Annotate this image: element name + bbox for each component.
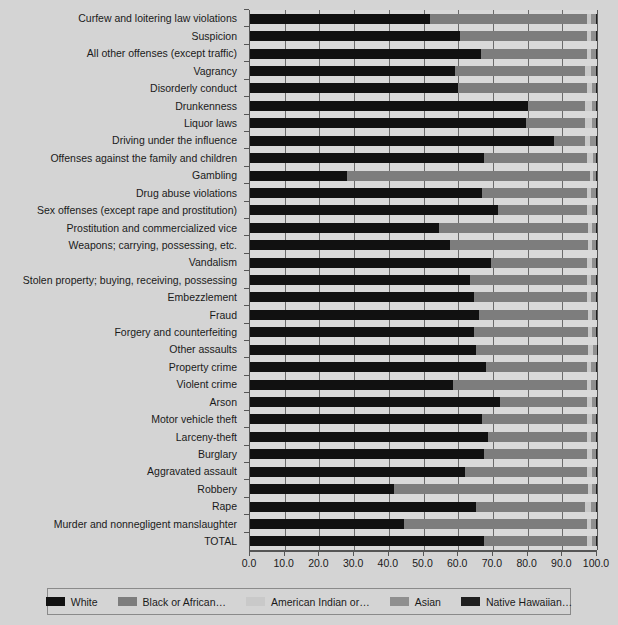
bar-segment [596,258,597,268]
bar-segment [250,536,484,546]
bar-segment [474,327,589,337]
bar-segment [250,362,486,372]
bar-segment [526,118,585,128]
stacked-bar [250,66,597,76]
y-axis-label: Embezzlement [0,289,243,306]
bar-segment [250,275,470,285]
y-axis-label: Murder and nonnegligent manslaughter [0,515,243,532]
y-axis-label: All other offenses (except traffic) [0,45,243,62]
stacked-bar [250,362,597,372]
y-axis-label: Burglary [0,446,243,463]
bar-segment [596,14,597,24]
legend-item[interactable]: American Indian or… [246,596,370,608]
bar-segment [486,362,587,372]
bar-row [250,411,597,428]
bar-row [250,271,597,288]
bar-segment [596,292,597,302]
bar-segment [596,519,597,529]
bar-segment [484,153,586,163]
bar-row [250,376,597,393]
stacked-bar [250,49,597,59]
bar-segment [596,136,597,146]
stacked-bar [250,292,597,302]
bar-row [250,80,597,97]
x-tick-label: 100.0 [583,557,609,569]
bar-segment [482,188,586,198]
x-tick-mark [457,551,458,556]
x-tick-label: 10.0 [273,557,293,569]
stacked-bar [250,240,597,250]
bar-segment [439,223,588,233]
bar-row [250,341,597,358]
bar-segment [491,258,586,268]
bar-segment [460,31,587,41]
y-axis-label: Gambling [0,167,243,184]
y-axis-label: Aggravated assault [0,463,243,480]
bar-row [250,289,597,306]
bar-segment [250,292,474,302]
bar-segment [250,327,474,337]
stacked-bar [250,171,597,181]
bar-row [250,254,597,271]
bar-segment [596,432,597,442]
stacked-bar [250,188,597,198]
bar-row [250,10,597,27]
legend-label: White [71,596,98,608]
x-tick-label: 30.0 [343,557,363,569]
bar-segment [596,188,597,198]
stacked-bar [250,118,597,128]
bar-segment [476,345,589,355]
bar-segment [596,484,597,494]
bar-segment [250,397,500,407]
bar-segment [585,101,593,111]
bar-segment [250,101,528,111]
stacked-bar [250,327,597,337]
y-axis-label: Drunkenness [0,97,243,114]
stacked-bar [250,449,597,459]
y-axis-label: Weapons; carrying, possessing, etc. [0,236,243,253]
bar-segment [596,240,597,250]
bar-row [250,480,597,497]
bar-segment [250,14,430,24]
y-axis-label: Drug abuse violations [0,184,243,201]
bar-segment [484,536,586,546]
bar-row [250,324,597,341]
bar-segment [347,171,590,181]
bar-segment [596,101,597,111]
bar-row [250,463,597,480]
bar-row [250,115,597,132]
stacked-bar [250,136,597,146]
bar-segment [596,362,597,372]
bar-segment [470,275,586,285]
bar-segment [554,136,585,146]
bar-segment [250,118,526,128]
x-axis-tick-labels: 0.010.020.030.040.050.060.070.080.090.01… [249,557,596,571]
bar-segment [481,49,587,59]
stacked-bar [250,31,597,41]
bar-segment [500,397,587,407]
stacked-bar [250,502,597,512]
x-tick-label: 20.0 [308,557,328,569]
bar-segment [394,484,588,494]
bar-segment [596,467,597,477]
x-tick-label: 0.0 [242,557,257,569]
x-tick-label: 50.0 [412,557,432,569]
bar-segment [479,310,588,320]
y-axis-label: TOTAL [0,533,243,550]
x-axis-tick-marks [249,551,596,556]
bar-row [250,202,597,219]
stacked-bar [250,258,597,268]
legend-item[interactable]: Black or African… [118,596,226,608]
bar-segment [482,414,586,424]
bar-row [250,306,597,323]
bar-segment [474,292,587,302]
legend-item[interactable]: White [46,596,98,608]
y-axis-label: Vandalism [0,254,243,271]
x-tick-mark [561,551,562,556]
stacked-bar [250,205,597,215]
legend-swatch-icon [461,597,480,606]
legend-item[interactable]: Native Hawaiian… [461,596,572,608]
legend-item[interactable]: Asian [390,596,441,608]
bar-segment [430,14,586,24]
y-axis-label: Rape [0,498,243,515]
